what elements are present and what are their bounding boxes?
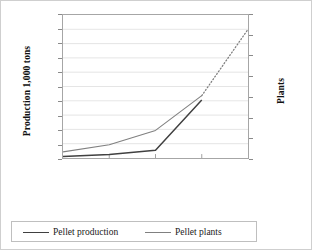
legend-item-pellet-plants: Pellet plants bbox=[145, 226, 222, 238]
right-tickmark-40 bbox=[249, 118, 253, 119]
legend-label-pellet-plants: Pellet plants bbox=[175, 226, 222, 238]
left-tickmark-0 bbox=[58, 159, 62, 160]
legend-item-pellet-production: Pellet production bbox=[23, 226, 118, 238]
legend-swatch-pellet-production bbox=[23, 232, 49, 233]
chart-legend: Pellet production Pellet plants bbox=[11, 221, 257, 242]
chart-figure: Production 1,000 tons Plants Pellet prod… bbox=[0, 0, 312, 250]
right-axis-title: Plants bbox=[276, 61, 286, 121]
legend-label-pellet-production: Pellet production bbox=[53, 226, 118, 238]
data-series-layer bbox=[63, 15, 248, 158]
legend-swatch-pellet-plants bbox=[145, 232, 171, 233]
right-tickmark-60 bbox=[249, 97, 253, 98]
plot-area bbox=[62, 14, 249, 159]
right-tickmark-120 bbox=[249, 35, 253, 36]
left-axis-title: Production 1,000 tons bbox=[22, 19, 32, 164]
right-tickmark-140 bbox=[249, 14, 253, 15]
right-tickmark-100 bbox=[249, 55, 253, 56]
right-tickmark-0 bbox=[249, 159, 253, 160]
right-tickmark-20 bbox=[249, 138, 253, 139]
right-tickmark-80 bbox=[249, 76, 253, 77]
